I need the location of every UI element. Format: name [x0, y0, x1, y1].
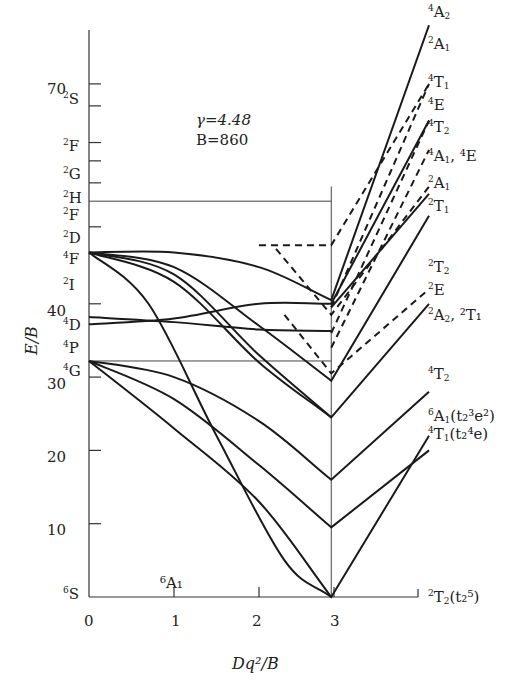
state-label-2t1: 2T1 — [428, 198, 449, 215]
y-tick-label: 10 — [26, 523, 66, 538]
term-label-2h: 2H — [63, 190, 82, 206]
state-label-4t1: 4T1 — [428, 74, 449, 91]
y-tick-label: 20 — [26, 450, 66, 465]
term-label-2f: 2F — [63, 207, 79, 223]
term-label-6s: 6S — [63, 586, 79, 602]
term-label-2d: 2D — [63, 230, 81, 246]
term-label-2f: 2F — [63, 138, 79, 154]
curve-4a1-4e-4g-branch — [89, 361, 429, 480]
gamma-annotation: γ=4.48 — [196, 112, 251, 129]
state-label-4t2: 4T2 — [428, 366, 449, 383]
state-label-2a2-2t1: 2A2, ²T₁ — [428, 307, 482, 324]
state-label-4t2: 4T2 — [428, 119, 449, 136]
term-label-4f: 4F — [63, 251, 79, 267]
curve-2t2-dashed — [276, 187, 429, 315]
x-tick-label: 1 — [171, 614, 181, 629]
y-tick-label: 40 — [26, 304, 66, 319]
term-label-4d: 4D — [63, 317, 81, 333]
energy-curves — [89, 25, 429, 597]
y-tick-label: 30 — [26, 377, 66, 392]
x-tick-label: 2 — [252, 614, 262, 629]
term-label-2g: 2G — [63, 166, 81, 182]
curve-4t1-t2-4-e- — [89, 361, 429, 597]
state-label-4a1-4e: 4A1, ⁴E — [428, 148, 477, 165]
x-tick-label: 0 — [84, 614, 94, 629]
state-label-4e: 4E — [428, 97, 445, 113]
x-axis-title: Dq²/B — [232, 654, 279, 673]
y-tick-label: 70 — [26, 82, 66, 97]
term-label-4p: 4P — [63, 340, 79, 356]
axes — [89, 30, 418, 597]
state-label-6a1-t2-3-e-2-: 6A1(t₂³e²) — [428, 408, 495, 425]
state-label-2t2-t2-5-: 2T2(t₂⁵) — [428, 589, 479, 606]
ground-state-label: ⁶A₁ — [160, 576, 183, 591]
y-axis-title: E/B — [22, 326, 41, 355]
b-annotation: B=860 — [196, 132, 248, 149]
state-label-2a1: 2A1 — [428, 175, 450, 192]
x-tick-label: 3 — [330, 614, 340, 629]
state-label-2a1: 2A1 — [428, 36, 450, 53]
state-label-2t2: 2T2 — [428, 259, 449, 276]
curve-2a1-dashed — [331, 84, 429, 308]
state-label-4a2: 4A2 — [428, 4, 450, 21]
curve-2t2-t2-5- — [89, 252, 429, 417]
term-label-2i: 2I — [63, 277, 75, 293]
state-label-2e: 2E — [428, 282, 445, 298]
curve-4t2-dashed — [331, 150, 429, 348]
state-label-4t1-t2-4-e-: 4T1(t₂⁴e) — [428, 426, 488, 443]
term-label-4g: 4G — [63, 363, 81, 379]
term-label-2s: 2S — [63, 91, 79, 107]
